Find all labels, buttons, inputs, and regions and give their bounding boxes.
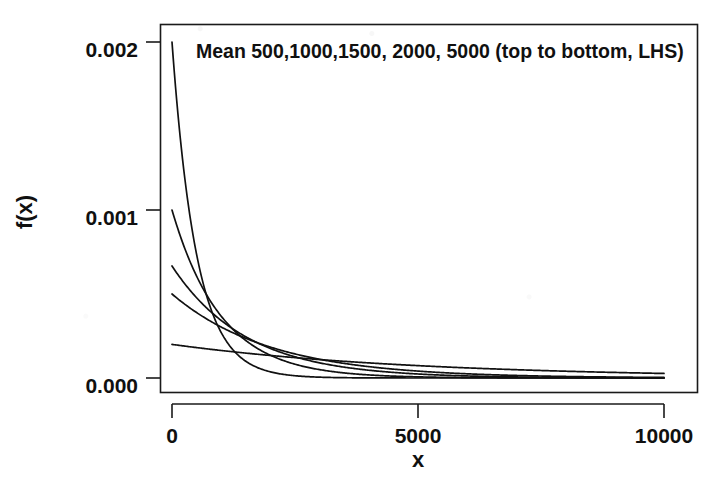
x-tick-label-10000: 10000 — [635, 424, 693, 447]
x-tick-label-5000: 5000 — [395, 424, 442, 447]
x-axis-ticks — [172, 404, 664, 418]
density-curve — [172, 344, 664, 373]
x-axis-title: x — [412, 447, 425, 472]
plot-annotation: Mean 500,1000,1500, 2000, 5000 (top to b… — [196, 40, 684, 62]
exponential-density-chart: 0.002 0.001 0.000 f(x) 0 5000 10000 x Me… — [0, 0, 715, 479]
chart-figure: 0.002 0.001 0.000 f(x) 0 5000 10000 x Me… — [0, 0, 715, 479]
curve-layer — [172, 42, 664, 378]
y-axis-ticks — [146, 42, 160, 378]
y-tick-label-middle: 0.001 — [85, 206, 138, 229]
y-tick-label-upper: 0.002 — [85, 38, 138, 61]
y-axis-title: f(x) — [12, 195, 37, 229]
x-tick-label-0: 0 — [166, 424, 178, 447]
y-tick-label-lower: 0.000 — [85, 374, 138, 397]
density-curve — [172, 42, 664, 378]
